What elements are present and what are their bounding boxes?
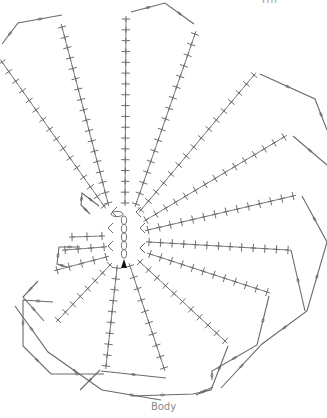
chain-stitch-line — [302, 196, 327, 242]
stitch-ray — [121, 16, 130, 206]
body-label: Body — [0, 401, 327, 412]
stitch-ray — [0, 60, 107, 209]
chain-stitch-line — [132, 346, 228, 396]
chain-stitch-line — [260, 74, 327, 130]
stitch-ray — [62, 243, 107, 254]
chain-stitch-line — [196, 387, 213, 395]
stitch-ray — [69, 232, 105, 241]
start-marker-icon — [121, 259, 127, 268]
chain-oval-icon — [121, 241, 126, 249]
increase-icon — [108, 223, 113, 233]
stitch-rays — [0, 16, 296, 371]
stitch-ray — [147, 250, 270, 296]
increase-icon — [108, 241, 113, 251]
chain-oval-icon — [121, 233, 126, 241]
stitch-ray — [137, 259, 228, 344]
stitch-ray — [146, 238, 291, 254]
increase-icon — [140, 223, 145, 233]
chain-stitch-line — [101, 371, 166, 378]
center-chain — [108, 207, 145, 268]
increase-icon — [140, 243, 145, 253]
stitch-ray — [102, 265, 121, 369]
chain-stitch-line — [293, 136, 327, 165]
stitch-ray — [138, 72, 257, 212]
chain-oval-icon — [121, 224, 126, 232]
stitch-ray — [145, 192, 296, 234]
chain-loops — [2, 3, 327, 400]
chain-stitch-line — [15, 306, 161, 400]
chain-stitch-line — [2, 15, 62, 44]
stitch-ray — [126, 263, 168, 371]
top-label: Hn — [262, 0, 278, 5]
chain-stitch-line — [291, 250, 305, 311]
crochet-chart — [0, 0, 327, 418]
chain-oval-icon — [121, 216, 126, 224]
chain-stitch-line — [81, 193, 99, 214]
chain-stitch-line — [131, 3, 194, 24]
stitch-ray — [143, 133, 286, 223]
stitch-ray — [55, 262, 113, 323]
chain-stitch-line — [221, 242, 327, 388]
chain-oval-icon — [121, 250, 126, 258]
